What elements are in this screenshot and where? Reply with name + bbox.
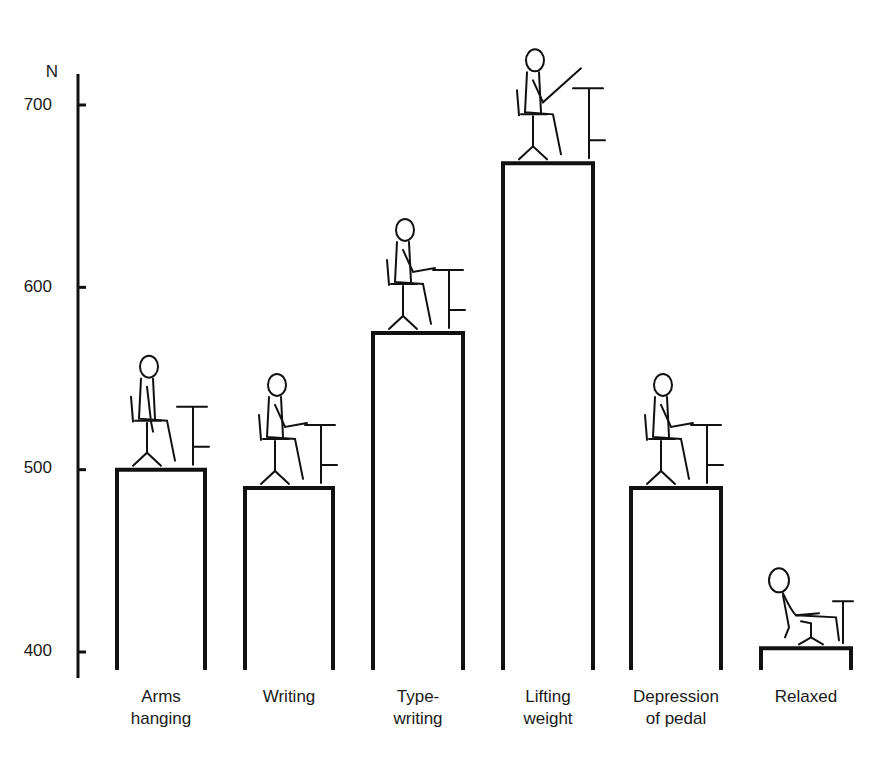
x-label-relaxed: Relaxed [756, 686, 856, 708]
bar-1 [117, 470, 205, 670]
x-label-arms-hanging: Arms hanging [111, 686, 211, 730]
x-label-depression-of-pedal: Depression of pedal [616, 686, 736, 730]
x-label-typewriting: Type- writing [368, 686, 468, 730]
y-tick-500: 500 [2, 458, 52, 478]
bar-chart: N 700 600 500 400 Arms hanging Writing T… [0, 0, 885, 758]
bar-4 [503, 163, 593, 670]
seated-person-icon [131, 356, 209, 466]
seated-person-icon [645, 374, 723, 484]
bars [117, 163, 851, 670]
y-tick-700: 700 [2, 95, 52, 115]
x-label-writing: Writing [239, 686, 339, 708]
figures [131, 49, 853, 644]
y-tick-600: 600 [2, 277, 52, 297]
seated-person-icon [387, 219, 465, 329]
x-label-lifting-weight: Lifting weight [498, 686, 598, 730]
y-axis [78, 74, 86, 678]
bar-3 [373, 333, 463, 670]
seated-person-icon [769, 568, 853, 644]
bar-2 [245, 488, 333, 670]
seated-person-icon [259, 374, 337, 484]
y-axis-unit: N [0, 62, 58, 82]
bar-6 [761, 648, 851, 670]
chart-canvas [0, 0, 885, 758]
bar-5 [631, 488, 721, 670]
seated-person-icon [517, 49, 605, 159]
y-tick-400: 400 [2, 641, 52, 661]
